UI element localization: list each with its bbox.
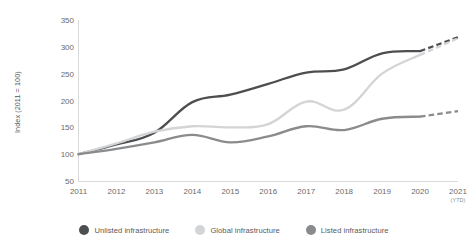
x-axis-tick-label: 2021 bbox=[449, 187, 467, 196]
x-axis-tick-label: 2019 bbox=[373, 187, 391, 196]
x-axis-tick-label: 2018 bbox=[335, 187, 353, 196]
x-axis-tick-label: 2014 bbox=[183, 187, 201, 196]
series-line-solid bbox=[79, 55, 421, 154]
x-axis-tick-label: 2020 bbox=[411, 187, 429, 196]
x-axis-tick-label: 2012 bbox=[108, 187, 126, 196]
legend-circle-icon bbox=[306, 225, 316, 235]
x-axis-tick-label: 2017 bbox=[297, 187, 315, 196]
x-axis-tick-label: 2015 bbox=[221, 187, 239, 196]
series-line-dashed-forecast bbox=[420, 38, 458, 55]
legend-circle-icon bbox=[195, 225, 205, 235]
x-axis-tick-2021: 2021(YTD) bbox=[435, 187, 468, 203]
line-chart: Index (2011 = 100) 35030025020015010050 … bbox=[0, 0, 468, 249]
axis-lines bbox=[79, 20, 459, 182]
data-series-layer bbox=[79, 37, 459, 154]
legend-circle-icon bbox=[79, 225, 89, 235]
legend-item-unlisted-infrastructure[interactable]: Unlisted infrastructure bbox=[79, 225, 169, 235]
x-axis-tick-label: 2016 bbox=[259, 187, 277, 196]
series-listed-infrastructure bbox=[79, 111, 459, 154]
x-axis-tick-label: 2011 bbox=[70, 187, 87, 196]
legend-item-label: Listed infrastructure bbox=[321, 226, 389, 235]
series-line-dashed-forecast bbox=[420, 37, 458, 51]
series-line-dashed-forecast bbox=[420, 111, 458, 116]
legend-item-global-infrastructure[interactable]: Global infrastructure bbox=[195, 225, 279, 235]
x-axis-tick-sublabel: (YTD) bbox=[435, 197, 468, 203]
chart-legend: Unlisted infrastructureGlobal infrastruc… bbox=[0, 222, 468, 238]
legend-item-listed-infrastructure[interactable]: Listed infrastructure bbox=[306, 225, 389, 235]
series-line-solid bbox=[79, 117, 421, 155]
x-axis-tick-labels: 2011201220132014201520162017201820192020… bbox=[0, 187, 468, 213]
legend-item-label: Global infrastructure bbox=[210, 226, 279, 235]
x-axis-tick-label: 2013 bbox=[145, 187, 163, 196]
legend-item-label: Unlisted infrastructure bbox=[94, 226, 169, 235]
